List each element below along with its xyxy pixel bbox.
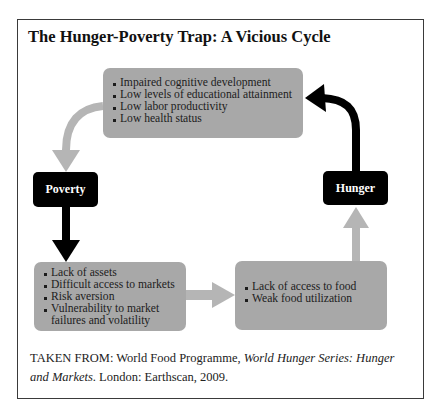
poverty-effects-box: Lack of assets Difficult access to marke… [34, 262, 186, 331]
arrow-head-to-top [305, 84, 326, 112]
arrow-head-to-assets [52, 240, 80, 262]
arrow-head-to-food [212, 282, 235, 308]
arrow-poverty-to-assets-shaft [62, 207, 70, 241]
caption-prefix: TAKEN FROM: World Food Programme, [30, 351, 244, 365]
arrow-hunger-to-top [322, 98, 356, 171]
source-caption: TAKEN FROM: World Food Programme, World … [30, 349, 415, 387]
caption-suffix: . London: Earthscan, 2009. [93, 370, 228, 384]
consequences-box: Impaired cognitive development Low level… [103, 68, 303, 138]
list-item: Weak food utilization [244, 293, 387, 305]
arrow-head-to-poverty [52, 150, 80, 172]
poverty-node: Poverty [33, 172, 98, 207]
arrow-food-to-hunger-shaft [352, 226, 360, 261]
arrow-top-to-poverty [66, 106, 103, 150]
hunger-node: Hunger [323, 171, 388, 205]
poverty-label: Poverty [46, 182, 86, 197]
hunger-label: Hunger [336, 181, 375, 196]
food-access-box: Lack of access to food Weak food utiliza… [235, 261, 387, 330]
list-item: Low health status [112, 113, 303, 125]
list-item: Vulnerability to market failures and vol… [43, 303, 179, 327]
arrow-assets-to-food-shaft [186, 290, 214, 300]
arrow-head-to-hunger [343, 207, 369, 228]
